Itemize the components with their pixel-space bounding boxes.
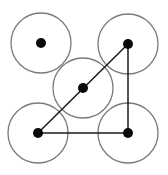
node-bottom-left — [33, 128, 43, 138]
node-center — [78, 83, 88, 93]
disk-graph-diagram — [0, 0, 168, 175]
node-top-right — [123, 39, 133, 49]
node-top-left — [36, 38, 46, 48]
node-bottom-right — [123, 128, 133, 138]
